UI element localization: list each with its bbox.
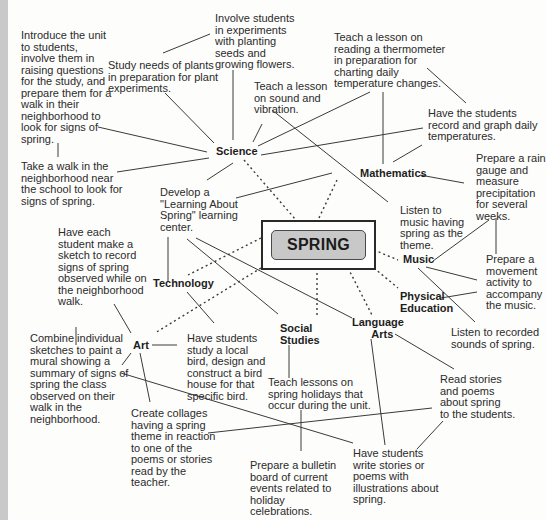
hub-mathematics: Mathematics — [360, 168, 427, 180]
hub-science: Science — [216, 146, 258, 158]
note-sound-vibration: Teach a lesson on sound and vibration. — [254, 81, 327, 116]
note-take-walk: Take a walk in the neighborhood near the… — [21, 161, 123, 207]
note-bulletin-board: Prepare a bulletin board of current even… — [250, 460, 336, 518]
hub-social-studies: Social Studies — [280, 323, 320, 346]
note-movement-activity: Prepare a movement activity to accompany… — [486, 254, 542, 312]
hub-technology: Technology — [153, 278, 214, 290]
note-sketch: Have each student make a sketch to recor… — [58, 227, 147, 308]
note-mural: Combine individual sketches to paint a m… — [30, 333, 128, 425]
hub-physical-education: Physical Education — [400, 291, 453, 314]
note-introduce-unit: Introduce the unit to students, involve … — [21, 30, 112, 145]
center-node-inner: SPRING — [271, 230, 366, 260]
note-rain-gauge: Prepare a rain gauge and measure precipi… — [476, 153, 546, 222]
note-bird-house: Have students study a local bird, design… — [187, 333, 265, 402]
center-node-spring: SPRING — [261, 220, 376, 270]
center-label: SPRING — [287, 236, 350, 254]
note-listen-music: Listen to music having spring as the the… — [400, 205, 464, 251]
note-graph-temps: Have the students record and graph daily… — [428, 108, 537, 143]
note-learning-center: Develop a "Learning About Spring" learni… — [160, 187, 238, 233]
note-thermometer: Teach a lesson on reading a thermometer … — [334, 32, 445, 90]
note-read-stories: Read stories and poems about spring to t… — [440, 374, 515, 420]
note-involve-experiments: Involve students in experiments with pla… — [215, 13, 295, 71]
hub-music: Music — [403, 254, 434, 266]
note-recorded-sounds: Listen to recorded sounds of spring. — [451, 327, 539, 350]
note-spring-holidays: Teach lessons on spring holidays that oc… — [268, 377, 371, 412]
hub-language-arts: Language Arts — [352, 317, 404, 340]
note-write-stories: Have students write stories or poems wit… — [353, 448, 439, 506]
hub-art: Art — [133, 340, 149, 352]
note-collages: Create collages having a spring theme in… — [131, 408, 215, 489]
note-study-plants: Study needs of plants in preparation for… — [108, 60, 218, 95]
